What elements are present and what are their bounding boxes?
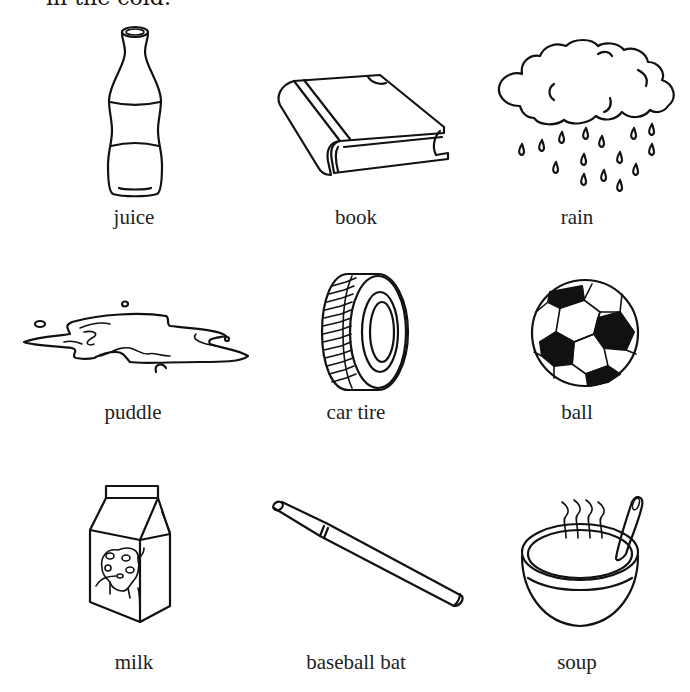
item-label: car tire <box>327 400 386 425</box>
soup-bowl-icon <box>518 490 648 630</box>
item-label: rain <box>561 205 594 230</box>
instruction-text: in the cold. <box>46 0 171 10</box>
puddle-icon <box>20 300 250 378</box>
item-label: book <box>335 205 377 230</box>
item-label: puddle <box>104 400 161 425</box>
item-label: ball <box>561 400 593 425</box>
milk-carton-icon <box>88 484 176 636</box>
baseball-bat-icon <box>270 500 466 608</box>
rain-cloud-icon <box>494 40 676 196</box>
item-label: baseball bat <box>306 650 406 675</box>
item-label: juice <box>114 205 155 230</box>
book-icon <box>276 75 448 180</box>
item-label: milk <box>115 650 154 675</box>
item-label: soup <box>557 650 597 675</box>
juice-bottle-icon <box>105 26 165 198</box>
soccer-ball-icon <box>530 278 640 388</box>
car-tire-icon <box>322 272 410 394</box>
